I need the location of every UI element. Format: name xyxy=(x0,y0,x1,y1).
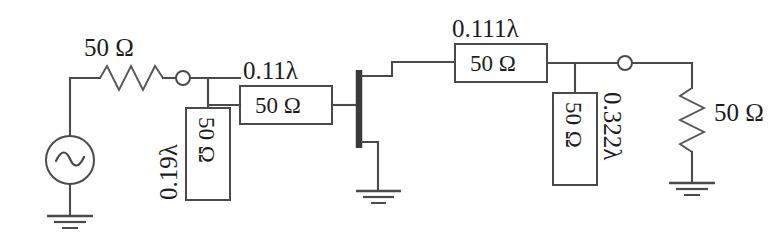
load-resistor-symbol xyxy=(680,88,704,152)
transistor-ground-icon xyxy=(356,191,401,203)
load-top-wire xyxy=(632,63,692,88)
source-ground-icon xyxy=(47,216,93,228)
source-resistor-group xyxy=(70,66,176,90)
transistor-source-wire xyxy=(362,142,378,190)
input-stub-impedance-label: 50 Ω xyxy=(195,117,218,163)
circuit-diagram: 50 Ω 0.19λ 50 Ω 0.11λ 50 Ω 0.111λ 50 Ω 5… xyxy=(0,0,780,247)
load-ground-icon xyxy=(669,183,715,195)
ac-source-group xyxy=(46,78,94,228)
input-line-length-label: 0.11λ xyxy=(243,58,298,83)
fet-transistor-group xyxy=(356,62,455,203)
tee-to-line-wire xyxy=(208,78,240,105)
output-line-length-label: 0.111λ xyxy=(452,16,519,41)
output-stub-impedance-label: 50 Ω xyxy=(562,102,585,148)
output-node-marker xyxy=(618,56,632,70)
transistor-drain-wire xyxy=(362,62,455,76)
source-resistor-label: 50 Ω xyxy=(84,35,134,60)
input-stub-length-label: 0.19λ xyxy=(156,144,181,200)
input-line-impedance-label: 50 Ω xyxy=(255,94,301,117)
output-stub-length-label: 0.322λ xyxy=(600,92,625,160)
load-resistor-group xyxy=(632,63,715,195)
load-resistor-label: 50 Ω xyxy=(714,100,764,125)
source-resistor-symbol xyxy=(100,66,163,90)
input-node-marker xyxy=(176,71,190,85)
output-line-impedance-label: 50 Ω xyxy=(470,52,516,75)
